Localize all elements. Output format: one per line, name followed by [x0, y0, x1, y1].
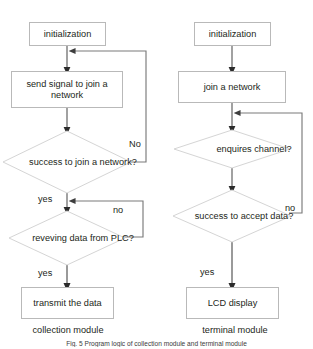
process-send-signal-label: send signal to join a network	[14, 79, 120, 101]
process-initialization-right-label: initialization	[209, 29, 257, 40]
decision-accept-data[interactable]: success to accept data?	[173, 190, 291, 242]
process-join-network-label: join a network	[204, 82, 261, 93]
figure-caption: Fig. 5 Program logic of collection modul…	[0, 340, 313, 347]
process-transmit-data-label: transmit the data	[33, 298, 101, 309]
edge-label-l3-no: No	[129, 139, 141, 149]
process-initialization-left-label: initialization	[44, 29, 92, 40]
edge-label-r4-yes: yes	[200, 267, 214, 277]
module-label-collection: collection module	[13, 325, 123, 335]
flowchart-figure: initialization send signal to join a net…	[0, 0, 313, 349]
decision-success-join[interactable]: success to join a network?	[3, 131, 131, 193]
process-initialization-right[interactable]: initialization	[194, 22, 271, 46]
edge-label-l3-yes: yes	[38, 194, 52, 204]
process-join-network[interactable]: join a network	[178, 71, 286, 103]
edge-label-r4-no: no	[285, 203, 295, 213]
process-send-signal[interactable]: send signal to join a network	[11, 71, 123, 108]
decision-reveving-data[interactable]: reveving data from PLC?	[9, 211, 125, 265]
decision-accept-data-label: success to accept data?	[173, 190, 313, 242]
process-transmit-data[interactable]: transmit the data	[21, 287, 114, 319]
decision-enquires-channel[interactable]: enquires channel?	[174, 130, 290, 168]
process-initialization-left[interactable]: initialization	[29, 22, 106, 46]
decision-reveving-data-label: reveving data from PLC?	[9, 211, 157, 265]
edge-label-l4-yes: yes	[38, 268, 52, 278]
module-label-terminal: terminal module	[180, 325, 290, 335]
process-lcd-display-label: LCD display	[208, 298, 258, 309]
process-lcd-display[interactable]: LCD display	[186, 287, 279, 319]
edge-label-l4-no: no	[113, 205, 123, 215]
decision-enquires-channel-label: enquires channel?	[174, 130, 313, 168]
